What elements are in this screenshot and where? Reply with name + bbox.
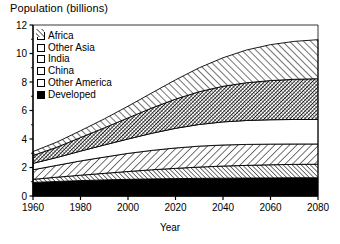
legend-swatch-other-asia [37,44,45,52]
x-tick-label: 2060 [259,202,282,213]
population-area-chart: Population (billions) [0,0,340,244]
x-tick-label: 1960 [22,202,45,213]
legend-swatch-other-america [37,79,45,87]
y-tick-label: 0 [21,191,27,202]
y-tick-label: 2 [21,162,27,173]
x-tick-label: 2040 [212,202,235,213]
legend-label-developed: Developed [48,90,96,100]
y-tick-label: 4 [21,134,27,145]
legend-item-china: China [37,65,120,77]
chart-legend: Africa Other Asia India China Other Amer… [36,29,122,103]
legend-item-developed: Developed [37,89,120,101]
x-axis-title: Year [0,222,340,233]
legend-item-other-america: Other America [37,77,120,89]
x-tick-label: 2080 [307,202,330,213]
legend-label-africa: Africa [48,31,74,41]
legend-label-china: China [48,66,74,76]
legend-item-india: India [37,54,120,66]
y-tick-label: 10 [16,48,28,59]
legend-item-africa: Africa [37,30,120,42]
y-tick-label: 12 [16,20,28,31]
legend-label-india: India [48,54,70,64]
legend-label-other-asia: Other Asia [48,43,95,53]
y-tick-label: 8 [21,77,27,88]
legend-item-other-asia: Other Asia [37,42,120,54]
x-tick-label: 2000 [117,202,140,213]
x-tick-label: 1980 [69,202,92,213]
y-tick-label: 6 [21,105,27,116]
x-tick-label: 2020 [164,202,187,213]
legend-swatch-china [37,67,45,75]
legend-swatch-india [37,55,45,63]
legend-label-other-america: Other America [48,78,112,88]
legend-swatch-developed [37,91,45,99]
